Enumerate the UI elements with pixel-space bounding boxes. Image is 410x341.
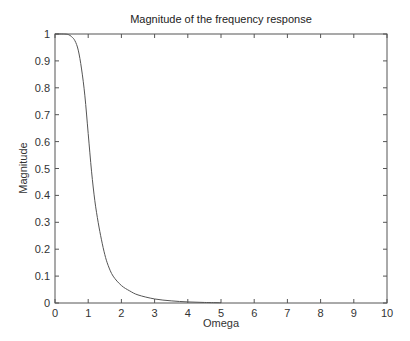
y-tick-label: 0.4 <box>35 189 50 201</box>
x-tick-label: 10 <box>381 307 393 319</box>
y-tick-label: 0.2 <box>35 243 50 255</box>
y-axis-label: Magnitude <box>17 142 29 193</box>
y-tick-label: 0.6 <box>35 136 50 148</box>
x-tick-label: 7 <box>284 307 290 319</box>
y-tick-label: 0.1 <box>35 270 50 282</box>
x-tick-label: 9 <box>351 307 357 319</box>
y-tick-label: 0.8 <box>35 82 50 94</box>
plot-area <box>55 34 387 303</box>
x-tick-label: 4 <box>185 307 191 319</box>
x-axis-label: Omega <box>203 317 240 329</box>
x-tick-label: 8 <box>318 307 324 319</box>
y-tick-label: 0 <box>44 297 50 309</box>
y-tick-label: 0.3 <box>35 216 50 228</box>
axes-box <box>55 34 387 303</box>
chart: Magnitude of the frequency response 00.1… <box>0 0 410 341</box>
y-tick-label: 1 <box>44 28 50 40</box>
x-tick-label: 1 <box>85 307 91 319</box>
x-tick-label: 0 <box>52 307 58 319</box>
y-tick-label: 0.5 <box>35 163 50 175</box>
x-tick-label: 2 <box>118 307 124 319</box>
y-tick-label: 0.7 <box>35 109 50 121</box>
y-tick-label: 0.9 <box>35 55 50 67</box>
x-tick-label: 6 <box>251 307 257 319</box>
chart-title: Magnitude of the frequency response <box>130 13 312 25</box>
x-tick-label: 3 <box>152 307 158 319</box>
